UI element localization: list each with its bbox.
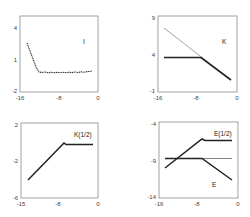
annotation-i: I <box>83 38 85 45</box>
annotation-e-half: E(1/2) <box>214 130 232 138</box>
xtick-label: -8 <box>56 95 62 101</box>
annotation-k-half: K(1/2) <box>74 131 92 139</box>
ytick-label: 4 <box>14 25 18 31</box>
ytick-label: -9 <box>151 158 157 164</box>
xtick-label: 0 <box>96 201 100 207</box>
xtick-label: 0 <box>236 201 240 207</box>
xtick-label: -15 <box>17 201 26 207</box>
series-k-thick <box>164 58 231 81</box>
ytick-label: -1 <box>150 88 156 94</box>
figure-4-panel: 4 1 -2 -16 -8 0 I 9 4 -1 -16 -8 0 K 2 -2… <box>0 0 250 217</box>
xtick-label: -16 <box>154 95 163 101</box>
annotation-k: K <box>222 38 227 45</box>
series-e-half <box>165 139 232 168</box>
ytick-label: 1 <box>14 57 18 63</box>
ytick-label: -4 <box>151 121 157 127</box>
ytick-label: -14 <box>147 194 156 200</box>
xtick-label: -16 <box>16 95 25 101</box>
ytick-label: 9 <box>152 15 156 21</box>
ytick-label: -2 <box>13 158 19 164</box>
xtick-label: -16 <box>155 201 164 207</box>
panel-i: 4 1 -2 -16 -8 0 I <box>12 16 101 101</box>
panel-e: -4 -9 -14 -16 -8 0 E(1/2) E <box>147 121 240 207</box>
panel-k-half: 2 -2 -6 -15 -8 0 K(1/2) <box>13 122 101 207</box>
ytick-label: -2 <box>12 88 18 94</box>
ytick-label: 2 <box>15 122 19 128</box>
xtick-label: -8 <box>193 95 199 101</box>
series-e-thick <box>165 159 232 181</box>
ytick-label: 4 <box>152 52 156 58</box>
series-i <box>27 43 92 73</box>
xtick-label: -8 <box>55 201 61 207</box>
series-k-half <box>28 143 93 180</box>
panel-k: 9 4 -1 -16 -8 0 K <box>150 15 240 101</box>
xtick-label: 0 <box>235 95 239 101</box>
xtick-label: -8 <box>194 201 200 207</box>
xtick-label: 0 <box>96 95 100 101</box>
annotation-e: E <box>212 181 217 188</box>
